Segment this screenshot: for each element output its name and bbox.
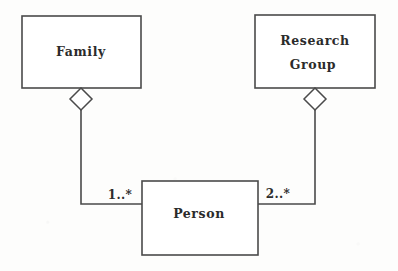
class-name-research-group-line1: Research: [280, 33, 350, 48]
aggregation-diamond-family[interactable]: [70, 88, 92, 110]
class-box-research-group[interactable]: [255, 15, 375, 88]
multiplicity-label-researchgroup-person: 2..*: [266, 187, 291, 201]
uml-class-family[interactable]: Family: [22, 16, 141, 88]
class-name-person: Person: [173, 206, 225, 221]
class-name-family: Family: [56, 44, 106, 59]
uml-class-research-group[interactable]: Research Group: [255, 15, 375, 88]
multiplicity-label-family-person: 1..*: [108, 188, 133, 202]
uml-diagram: Family Research Group Person 1..* 2..*: [0, 0, 398, 271]
aggregation-diamond-research-group[interactable]: [304, 88, 326, 110]
class-name-research-group-line2: Group: [290, 57, 336, 72]
diagram-canvas: Family Research Group Person 1..* 2..*: [0, 0, 398, 271]
uml-class-person[interactable]: Person: [142, 181, 258, 255]
